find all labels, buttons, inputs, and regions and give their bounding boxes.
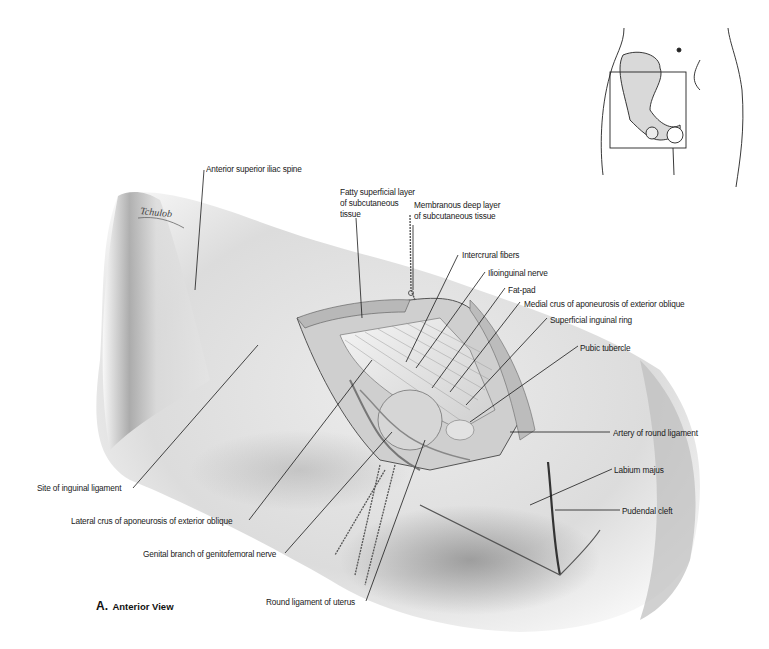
label-anterior-superior-iliac-spine: Anterior superior iliac spine [206, 163, 302, 174]
label-medial-crus: Medial crus of aponeurosis of exterior o… [524, 298, 685, 309]
anatomy-figure: Tchulob [0, 0, 769, 649]
label-lateral-crus: Lateral crus of aponeurosis of exterior … [71, 515, 232, 526]
label-pubic-tubercle: Pubic tubercle [580, 342, 630, 353]
inguinal-region-illustration: Tchulob [0, 0, 769, 649]
label-pudendal-cleft: Pudendal cleft [622, 505, 672, 516]
thigh-shadow [340, 505, 600, 615]
caption-letter: A. [96, 599, 108, 613]
label-genital-branch-genitofemoral-nerve: Genital branch of genitofemoral nerve [143, 548, 276, 559]
body-outline-right [728, 28, 743, 187]
label-site-of-inguinal-ligament: Site of inguinal ligament [37, 482, 121, 493]
label-round-ligament-of-uterus: Round ligament of uterus [266, 596, 355, 607]
figure-caption: A. Anterior View [96, 596, 174, 614]
label-ilioinguinal-nerve: Ilioinguinal nerve [488, 267, 548, 278]
label-superficial-inguinal-ring: Superficial inguinal ring [550, 314, 632, 325]
label-fatty-superficial-layer: Fatty superficial layer of subcutaneous … [340, 186, 415, 219]
label-fat-pad: Fat-pad [508, 284, 536, 295]
label-membranous-deep-layer: Membranous deep layer of subcutaneous ti… [414, 199, 500, 221]
label-artery-of-round-ligament: Artery of round ligament [613, 427, 698, 438]
caption-view: Anterior View [112, 601, 173, 612]
label-intercrural-fibers: Intercrural fibers [462, 249, 519, 260]
label-labium-majus: Labium majus [614, 464, 664, 475]
